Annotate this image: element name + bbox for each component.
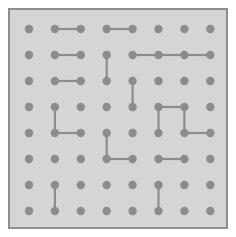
dot-r7-c2[interactable] (51, 181, 59, 189)
dot-r2-c8[interactable] (206, 51, 214, 59)
dot-r4-c5[interactable] (128, 103, 136, 111)
dot-r6-c7[interactable] (180, 155, 188, 163)
dot-r8-c8[interactable] (206, 207, 214, 215)
dot-r6-c4[interactable] (103, 155, 111, 163)
dot-r6-c2[interactable] (51, 155, 59, 163)
dot-r2-c6[interactable] (154, 51, 162, 59)
dot-r1-c3[interactable] (77, 25, 85, 33)
dot-r8-c5[interactable] (128, 207, 136, 215)
dot-r5-c4[interactable] (103, 129, 111, 137)
dot-r5-c5[interactable] (128, 129, 136, 137)
dot-r8-c7[interactable] (180, 207, 188, 215)
dot-r7-c6[interactable] (154, 181, 162, 189)
dot-r5-c3[interactable] (77, 129, 85, 137)
dot-r7-c8[interactable] (206, 181, 214, 189)
dot-r2-c4[interactable] (103, 51, 111, 59)
dot-r4-c8[interactable] (206, 103, 214, 111)
dot-r5-c2[interactable] (51, 129, 59, 137)
dot-r1-c5[interactable] (128, 25, 136, 33)
dot-r5-c8[interactable] (206, 129, 214, 137)
dot-r1-c7[interactable] (180, 25, 188, 33)
dot-r7-c5[interactable] (128, 181, 136, 189)
dot-r2-c5[interactable] (128, 51, 136, 59)
dot-r4-c7[interactable] (180, 103, 188, 111)
dot-grid-app (0, 0, 236, 237)
dot-r5-c6[interactable] (154, 129, 162, 137)
dot-r3-c6[interactable] (154, 77, 162, 85)
dot-r2-c3[interactable] (77, 51, 85, 59)
dot-r3-c5[interactable] (128, 77, 136, 85)
dot-r2-c1[interactable] (25, 51, 33, 59)
dot-r7-c1[interactable] (25, 181, 33, 189)
dot-r6-c3[interactable] (77, 155, 85, 163)
dot-r5-c1[interactable] (25, 129, 33, 137)
dot-r3-c8[interactable] (206, 77, 214, 85)
dot-r2-c7[interactable] (180, 51, 188, 59)
dot-r6-c1[interactable] (25, 155, 33, 163)
dot-r4-c6[interactable] (154, 103, 162, 111)
dot-r4-c4[interactable] (103, 103, 111, 111)
dot-r6-c8[interactable] (206, 155, 214, 163)
dot-r1-c8[interactable] (206, 25, 214, 33)
dot-r1-c1[interactable] (25, 25, 33, 33)
dot-r7-c4[interactable] (103, 181, 111, 189)
dot-r4-c3[interactable] (77, 103, 85, 111)
dot-r2-c2[interactable] (51, 51, 59, 59)
dot-grid-board[interactable] (8, 8, 228, 229)
dot-r8-c3[interactable] (77, 207, 85, 215)
dot-r3-c7[interactable] (180, 77, 188, 85)
dot-r1-c6[interactable] (154, 25, 162, 33)
dot-r1-c2[interactable] (51, 25, 59, 33)
dot-r7-c7[interactable] (180, 181, 188, 189)
dot-r3-c2[interactable] (51, 77, 59, 85)
dot-r7-c3[interactable] (77, 181, 85, 189)
dot-r3-c3[interactable] (77, 77, 85, 85)
dot-r8-c2[interactable] (51, 207, 59, 215)
dot-r8-c1[interactable] (25, 207, 33, 215)
dot-r5-c7[interactable] (180, 129, 188, 137)
dots-layer (25, 25, 215, 215)
dot-r4-c2[interactable] (51, 103, 59, 111)
dot-r4-c1[interactable] (25, 103, 33, 111)
dot-grid-canvas[interactable] (10, 10, 226, 227)
dot-r8-c4[interactable] (103, 207, 111, 215)
dot-r1-c4[interactable] (103, 25, 111, 33)
dot-r3-c1[interactable] (25, 77, 33, 85)
dot-r3-c4[interactable] (103, 77, 111, 85)
dot-r8-c6[interactable] (154, 207, 162, 215)
dot-r6-c6[interactable] (154, 155, 162, 163)
dot-r6-c5[interactable] (128, 155, 136, 163)
